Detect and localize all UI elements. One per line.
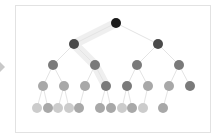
tree-node [59,81,69,91]
tree-diagram [0,0,220,138]
tree-node [117,103,127,113]
tree-node [127,103,137,113]
tree-node [164,81,174,91]
tree-edge [74,23,116,44]
tree-node [101,81,111,91]
tree-edge [116,23,158,44]
tree-node [43,103,53,113]
tree-node [106,103,116,113]
tree-node [74,103,84,113]
tree-node [32,103,42,113]
tree-node [80,81,90,91]
tree-node [138,103,148,113]
tree-node [153,39,163,49]
tree-node [38,81,48,91]
tree-node [48,60,58,70]
tree-node [53,103,63,113]
tree-node [185,81,195,91]
tree-node [95,103,105,113]
tree-node [143,81,153,91]
tree-node [122,81,132,91]
tree-node [64,103,74,113]
tree-node [111,18,121,28]
tree-node [90,60,100,70]
tree-node [158,103,168,113]
tree-node [132,60,142,70]
tree-node [69,39,79,49]
tree-node [174,60,184,70]
